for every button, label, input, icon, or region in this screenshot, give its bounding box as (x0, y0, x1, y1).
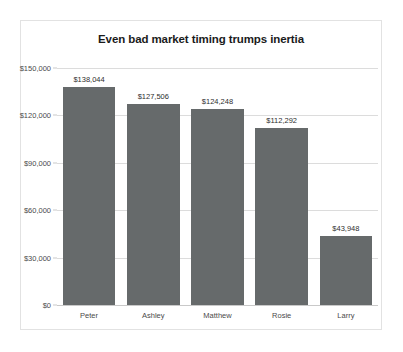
y-axis-tick-mark (53, 115, 57, 116)
bar[interactable]: $138,044Peter (63, 87, 116, 305)
x-axis-line (57, 305, 378, 306)
y-axis-tick-label: $0 (43, 301, 51, 310)
x-axis-category-label: Larry (337, 311, 354, 320)
y-axis-tick-label: $60,000 (24, 206, 51, 215)
chart-card: Even bad market timing trumps inertia $0… (20, 20, 382, 330)
y-axis-tick-label: $150,000 (20, 64, 51, 73)
y-axis-tick-mark (53, 257, 57, 258)
bar[interactable]: $112,292Rosie (255, 128, 308, 305)
gridline (57, 68, 378, 69)
y-axis-tick-mark (53, 68, 57, 69)
y-axis-tick-mark (53, 305, 57, 306)
x-axis-category-label: Peter (80, 311, 98, 320)
bar-value-label: $138,044 (73, 75, 104, 84)
y-axis-tick-label: $120,000 (20, 111, 51, 120)
x-axis-category-label: Matthew (203, 311, 231, 320)
bar[interactable]: $124,248Matthew (191, 109, 244, 305)
y-axis-tick-label: $30,000 (24, 253, 51, 262)
bar[interactable]: $127,506Ashley (127, 104, 180, 305)
bar-value-label: $112,292 (266, 116, 297, 125)
y-axis-tick-mark (53, 210, 57, 211)
chart-title: Even bad market timing trumps inertia (21, 33, 381, 45)
bar[interactable]: $43,948Larry (320, 236, 373, 305)
x-axis-category-label: Rosie (272, 311, 291, 320)
bar-value-label: $127,506 (138, 92, 169, 101)
x-axis-category-label: Ashley (142, 311, 165, 320)
plot-area: $0$30,000$60,000$90,000$120,000$150,000$… (57, 68, 378, 305)
bar-value-label: $124,248 (202, 97, 233, 106)
y-axis-tick-mark (53, 162, 57, 163)
y-axis-tick-label: $90,000 (24, 158, 51, 167)
bar-value-label: $43,948 (332, 224, 359, 233)
